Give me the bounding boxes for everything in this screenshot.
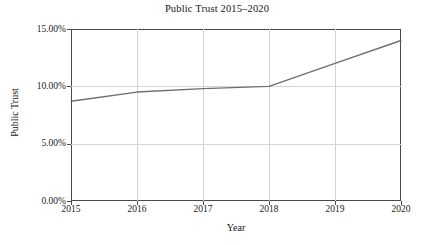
x-tick-label-2017: 2017 — [180, 204, 226, 214]
x-tick-label-2020: 2020 — [378, 204, 424, 214]
x-tick-label-2018: 2018 — [246, 204, 292, 214]
y-tick-label-15: 15.00% — [37, 24, 66, 34]
y-tick-label-10: 10.00% — [37, 81, 66, 91]
x-axis-title: Year — [71, 222, 401, 233]
plot-area — [71, 29, 401, 201]
y-tick-label-5: 5.00% — [41, 138, 66, 148]
x-tick-label-2016: 2016 — [114, 204, 160, 214]
chart-figure: Public Trust 2015–2020 15.00% 10.00% 5.0… — [0, 0, 434, 245]
x-tick-label-2019: 2019 — [312, 204, 358, 214]
x-tick-label-2015: 2015 — [48, 204, 94, 214]
y-axis-title: Public Trust — [9, 68, 20, 158]
series-line-public-trust — [71, 29, 401, 201]
